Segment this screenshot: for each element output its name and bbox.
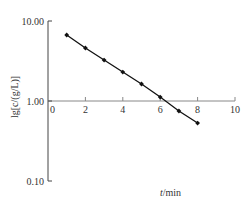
- x-tick-label: 0: [50, 104, 55, 115]
- y-axis-title: lg[c/(g/L)]: [9, 76, 21, 118]
- x-tick-label: 6: [158, 104, 163, 115]
- line-chart: 10.001.000.100246810 t/min lg[c/(g/L)]: [0, 0, 248, 210]
- x-tick-label: 10: [230, 104, 240, 115]
- y-tick-label: 0.10: [27, 176, 45, 187]
- y-tick-label: 1.00: [27, 96, 45, 107]
- x-axis-title: t/min: [160, 187, 181, 198]
- y-tick-label: 10.00: [22, 16, 45, 27]
- axes: 10.001.000.100246810: [22, 16, 241, 187]
- x-tick-label: 4: [120, 104, 125, 115]
- x-tick-label: 8: [195, 104, 200, 115]
- x-tick-label: 2: [83, 104, 88, 115]
